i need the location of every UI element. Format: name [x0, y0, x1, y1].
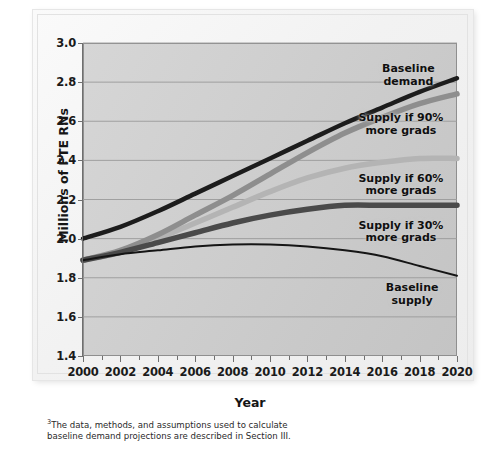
y-tick-label: 2.8	[36, 75, 76, 89]
series-label-baseline-demand: Baseline demand	[364, 63, 452, 88]
x-tick-label: 2020	[437, 365, 477, 379]
x-tick-label: 2008	[213, 365, 253, 379]
x-tick-label: 2002	[100, 365, 140, 379]
footnote-text: The data, methods, and assumptions used …	[47, 420, 291, 441]
x-minor-tick-mark	[214, 356, 215, 360]
series-label-supply-90: Supply if 90% more grads	[357, 112, 445, 137]
figure-container: Millions of FTE RNs Year 1.41.61.82.02.2…	[0, 0, 497, 454]
x-tick-label: 2004	[138, 365, 178, 379]
y-tick-label: 2.0	[36, 232, 76, 246]
x-tick-mark	[195, 356, 196, 362]
y-tick-label: 2.6	[36, 114, 76, 128]
x-tick-mark	[270, 356, 271, 362]
x-tick-mark	[83, 356, 84, 362]
x-tick-mark	[420, 356, 421, 362]
x-minor-tick-mark	[289, 356, 290, 360]
series-label-supply-60: Supply if 60% more grads	[357, 173, 445, 198]
plot-area	[83, 43, 457, 356]
x-tick-mark	[382, 356, 383, 362]
x-minor-tick-mark	[102, 356, 103, 360]
x-tick-mark	[457, 356, 458, 362]
y-tick-label: 2.4	[36, 153, 76, 167]
x-tick-label: 2016	[362, 365, 402, 379]
x-tick-mark	[233, 356, 234, 362]
x-tick-mark	[307, 356, 308, 362]
figure-footnote: 3The data, methods, and assumptions used…	[47, 417, 297, 443]
x-tick-mark	[158, 356, 159, 362]
y-tick-label: 1.4	[36, 349, 76, 363]
x-minor-tick-mark	[401, 356, 402, 360]
x-minor-tick-mark	[364, 356, 365, 360]
x-tick-label: 2010	[250, 365, 290, 379]
x-tick-label: 2018	[400, 365, 440, 379]
x-minor-tick-mark	[326, 356, 327, 360]
x-tick-label: 2006	[175, 365, 215, 379]
x-minor-tick-mark	[251, 356, 252, 360]
series-label-supply-30: Supply if 30% more grads	[357, 220, 445, 245]
y-axis-spine	[82, 43, 83, 357]
figure-title-partial	[250, 0, 490, 7]
x-minor-tick-mark	[139, 356, 140, 360]
y-tick-label: 1.6	[36, 310, 76, 324]
x-minor-tick-mark	[177, 356, 178, 360]
x-tick-mark	[345, 356, 346, 362]
chart-svg	[83, 43, 457, 356]
x-tick-mark	[120, 356, 121, 362]
x-tick-label: 2000	[63, 365, 103, 379]
y-tick-label: 3.0	[36, 36, 76, 50]
y-tick-label: 2.2	[36, 193, 76, 207]
y-tick-label: 1.8	[36, 271, 76, 285]
x-axis-title: Year	[130, 395, 370, 410]
x-tick-label: 2014	[325, 365, 365, 379]
x-minor-tick-mark	[438, 356, 439, 360]
x-tick-label: 2012	[287, 365, 327, 379]
series-label-baseline-supply: Baseline supply	[368, 282, 456, 307]
